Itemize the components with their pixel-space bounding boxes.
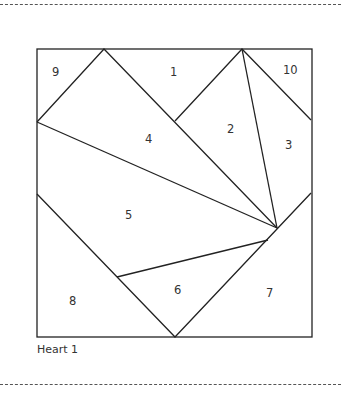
bottom-cut-line xyxy=(0,384,341,385)
piece-label-3: 3 xyxy=(285,138,292,152)
piece-label-8: 8 xyxy=(69,294,76,308)
piece-label-1: 1 xyxy=(170,65,177,79)
piece-label-5: 5 xyxy=(125,208,132,222)
piece-2-3-border xyxy=(242,49,277,228)
piece-4-5-border xyxy=(37,122,277,228)
heart-pattern-diagram: 1 2 3 4 5 6 7 8 9 10 xyxy=(0,0,341,402)
right-lobe-lines xyxy=(175,49,311,121)
piece-label-2: 2 xyxy=(227,122,234,136)
diagram-caption: Heart 1 xyxy=(37,343,78,356)
piece-label-7: 7 xyxy=(266,286,273,300)
piece-label-4: 4 xyxy=(145,132,152,146)
piece-label-9: 9 xyxy=(52,65,59,79)
piece-label-6: 6 xyxy=(174,283,181,297)
piece-5-6-border xyxy=(117,240,268,277)
bottom-v-lines xyxy=(37,193,311,337)
piece-label-10: 10 xyxy=(283,63,298,77)
